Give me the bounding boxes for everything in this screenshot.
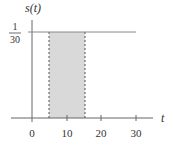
x-tick-label-30: 30 xyxy=(131,127,143,139)
x-tick-label-20: 20 xyxy=(96,127,108,139)
x-tick-label-10: 10 xyxy=(62,127,74,139)
y-tick-denominator: 30 xyxy=(10,34,20,45)
x-axis-label: t xyxy=(161,111,165,125)
uniform-density-chart: s(t) 1 30 t 0 10 20 30 xyxy=(0,0,171,147)
y-axis-label: s(t) xyxy=(25,1,41,15)
y-tick-numerator: 1 xyxy=(13,21,18,32)
x-tick-label-0: 0 xyxy=(29,127,35,139)
shaded-probability-region xyxy=(49,32,85,118)
